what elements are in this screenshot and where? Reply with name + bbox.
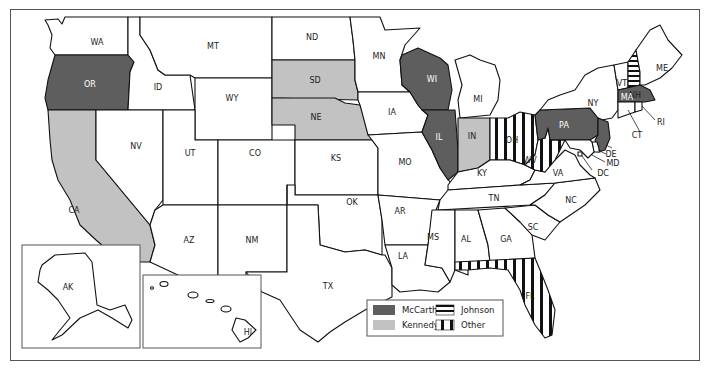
state-NE[interactable]	[272, 98, 372, 140]
state-label-ok: OK	[346, 198, 358, 207]
state-label-nd: ND	[306, 33, 318, 42]
legend-swatch-kennedy	[373, 320, 395, 330]
state-label-az: AZ	[184, 236, 195, 245]
state-RI[interactable]	[635, 102, 642, 112]
state-KS[interactable]	[295, 140, 378, 195]
state-label-ct: CT	[632, 131, 643, 140]
state-label-ut: UT	[185, 149, 196, 158]
state-label-al: AL	[461, 235, 471, 244]
state-label-in: IN	[468, 132, 476, 141]
state-label-va: VA	[553, 169, 564, 178]
state-label-wi: WI	[427, 75, 437, 84]
state-label-mn: MN	[373, 52, 386, 61]
state-label-fl: FL	[525, 292, 535, 301]
state-label-pa: PA	[559, 121, 569, 130]
state-label-ny: NY	[588, 99, 599, 108]
legend-item-other: Other	[436, 320, 486, 330]
legend-label-johnson: Johnson	[460, 305, 495, 315]
state-MI[interactable]	[455, 55, 500, 118]
state-WA[interactable]	[45, 17, 128, 55]
state-ME[interactable]	[636, 25, 682, 85]
state-label-sd: SD	[309, 76, 320, 85]
state-WY[interactable]	[195, 78, 272, 140]
state-label-ca: CA	[68, 206, 80, 215]
state-label-md: MD	[606, 159, 619, 168]
state-label-nv: NV	[130, 142, 142, 151]
state-label-ms: MS	[427, 233, 439, 242]
state-label-ri: RI	[657, 118, 665, 127]
state-label-tx: TX	[322, 282, 334, 291]
legend-label-kennedy: Kennedy	[402, 320, 439, 330]
state-label-ky: KY	[477, 169, 487, 178]
state-label-mi: MI	[473, 95, 482, 104]
state-DC[interactable]	[578, 152, 582, 156]
state-label-mo: MO	[398, 158, 411, 167]
state-MT[interactable]	[140, 17, 272, 78]
state-label-de: DE	[605, 150, 616, 159]
state-label-wv: WV	[523, 156, 537, 165]
legend: McCarthy Kennedy Johnson Other	[367, 300, 503, 336]
state-label-wy: WY	[226, 94, 239, 103]
legend-label-other: Other	[461, 320, 486, 330]
state-label-ma: MA	[621, 93, 634, 102]
state-label-ga: GA	[500, 235, 512, 244]
state-label-vt: VT	[617, 79, 627, 88]
state-label-ak: AK	[63, 283, 74, 292]
legend-swatch-mccarthy	[373, 305, 395, 315]
state-label-nm: NM	[246, 236, 259, 245]
state-label-la: LA	[398, 252, 409, 261]
state-label-ar: AR	[394, 207, 405, 216]
state-label-tn: TN	[488, 194, 500, 203]
state-label-mt: MT	[207, 42, 219, 51]
state-label-ia: IA	[388, 108, 396, 117]
state-label-nj: NJ	[615, 138, 623, 147]
us-primary-map: WAORCAIDNVMTWYUTCOAZNMNDSDNEKSOKTXMNIAMO…	[0, 0, 709, 371]
legend-item-mccarthy: McCarthy	[373, 305, 442, 315]
state-label-dc: DC	[597, 169, 609, 178]
state-label-hi: HI	[244, 328, 252, 337]
legend-item-johnson: Johnson	[436, 305, 495, 315]
state-label-nc: NC	[565, 196, 577, 205]
state-label-co: CO	[249, 149, 261, 158]
state-label-il: IL	[436, 133, 443, 142]
state-label-or: OR	[84, 80, 96, 89]
legend-swatch-johnson	[436, 305, 454, 315]
state-label-ne: NE	[310, 113, 321, 122]
state-label-id: ID	[154, 83, 163, 92]
state-label-me: ME	[656, 64, 668, 73]
legend-swatch-other	[436, 320, 454, 330]
state-label-ks: KS	[331, 154, 341, 163]
state-label-sc: SC	[528, 223, 539, 232]
legend-item-kennedy: Kennedy	[373, 320, 439, 330]
state-CT[interactable]	[618, 102, 635, 118]
state-label-wa: WA	[91, 38, 104, 47]
state-label-oh: OH	[506, 136, 518, 145]
